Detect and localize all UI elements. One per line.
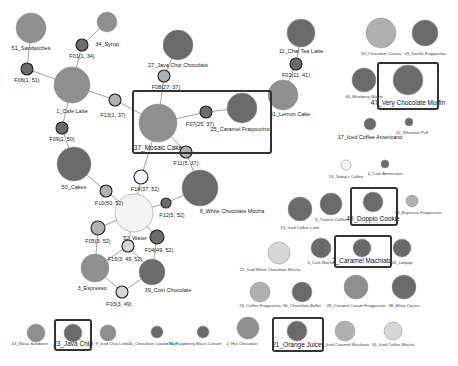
factor-node[interactable]: F01(1, 34) bbox=[69, 39, 95, 59]
item-node[interactable]: 8_Turkish Coffee bbox=[315, 193, 347, 222]
factor-node-circle[interactable] bbox=[56, 122, 68, 134]
item-node-circle[interactable] bbox=[341, 160, 351, 170]
item-node-circle[interactable] bbox=[412, 20, 438, 46]
item-node-circle[interactable] bbox=[237, 317, 259, 339]
factor-node-circle[interactable] bbox=[200, 106, 212, 118]
item-node-circle[interactable] bbox=[335, 321, 355, 341]
item-node-circle[interactable] bbox=[163, 30, 193, 60]
item-node-circle[interactable] bbox=[227, 93, 257, 123]
item-node[interactable]: 26_Coffee Frappucino bbox=[239, 282, 281, 308]
item-node-circle[interactable] bbox=[393, 65, 423, 95]
item-node-circle[interactable] bbox=[97, 12, 117, 32]
item-node-circle[interactable] bbox=[57, 147, 91, 181]
factor-node[interactable]: F09(1, 50) bbox=[49, 122, 75, 142]
item-node[interactable]: 6_White Chocolate Mocha bbox=[182, 170, 265, 214]
item-node-circle[interactable] bbox=[287, 19, 315, 47]
factor-node-circle[interactable] bbox=[158, 70, 170, 82]
item-node-circle[interactable] bbox=[197, 326, 209, 338]
item-node[interactable]: 45_Lolipop bbox=[392, 239, 413, 265]
item-node-circle[interactable] bbox=[268, 242, 290, 264]
item-node[interactable]: 37_Mosaic Cake bbox=[134, 104, 183, 152]
item-node[interactable]: 39_Coin Chocolate bbox=[139, 259, 191, 293]
item-node-circle[interactable] bbox=[54, 67, 90, 103]
item-node-circle[interactable] bbox=[287, 321, 307, 341]
item-node-circle[interactable] bbox=[81, 254, 109, 282]
factor-node-circle[interactable] bbox=[21, 63, 33, 75]
item-node[interactable]: 17_Iced Coffee Americano bbox=[338, 118, 403, 140]
item-node[interactable]: 2_Hot Chocolate bbox=[226, 317, 259, 346]
item-node-circle[interactable] bbox=[405, 118, 413, 126]
item-node-circle[interactable] bbox=[381, 160, 389, 168]
item-node[interactable]: 42_Wheaten Puff bbox=[396, 118, 429, 135]
item-node-circle[interactable] bbox=[16, 13, 46, 43]
item-node[interactable]: 7_Caramel Machiato bbox=[332, 239, 392, 265]
item-node[interactable]: 38_Misto Cocios bbox=[389, 275, 420, 308]
item-node-circle[interactable] bbox=[392, 275, 416, 299]
item-node-circle[interactable] bbox=[250, 282, 270, 302]
item-node-circle[interactable] bbox=[288, 197, 312, 221]
factor-node-circle[interactable] bbox=[290, 58, 302, 70]
item-node-circle[interactable] bbox=[364, 118, 376, 130]
item-node[interactable]: 35_Chocolate Cosica bbox=[361, 18, 401, 56]
factor-node[interactable]: F15(3, 49, 52) bbox=[108, 240, 143, 262]
factor-node[interactable]: F04(49, 52) bbox=[145, 230, 174, 253]
factor-node[interactable]: F12(5, 52) bbox=[159, 198, 185, 218]
item-node[interactable]: 1_Cafe Latte bbox=[54, 67, 90, 114]
item-node[interactable]: 23_Java Chip bbox=[53, 324, 93, 348]
item-node[interactable]: 43_Wasa Sandwich bbox=[12, 324, 50, 346]
item-node[interactable]: 51_Sandwiches bbox=[12, 13, 51, 51]
factor-node[interactable]: F13(1, 37) bbox=[100, 94, 126, 118]
factor-node-circle[interactable] bbox=[109, 94, 121, 106]
factor-node-circle[interactable] bbox=[76, 39, 88, 51]
item-node[interactable]: 25_Caramel Frappucino bbox=[210, 93, 269, 132]
item-node-circle[interactable] bbox=[268, 80, 298, 110]
factor-node[interactable]: F14(37, 52) bbox=[131, 170, 160, 192]
item-node[interactable]: 47_Very Chocolate Muffin bbox=[371, 65, 446, 107]
item-node-circle[interactable] bbox=[292, 282, 312, 302]
factor-node[interactable]: F02(11, 41) bbox=[282, 58, 310, 78]
item-node-circle[interactable] bbox=[363, 192, 383, 212]
factor-node[interactable]: F03(3, 49) bbox=[106, 286, 132, 307]
item-node-circle[interactable] bbox=[139, 259, 165, 285]
item-node[interactable]: 27_Java Chip Chocolate bbox=[148, 30, 208, 68]
item-node-circle[interactable] bbox=[100, 325, 116, 341]
item-node-circle[interactable] bbox=[320, 193, 342, 215]
item-node-circle[interactable] bbox=[384, 322, 402, 340]
item-node-circle[interactable] bbox=[344, 275, 368, 299]
factor-node[interactable]: F08(27, 37) bbox=[152, 70, 181, 90]
factor-node[interactable]: F07(25, 37) bbox=[186, 106, 215, 127]
item-node-circle[interactable] bbox=[139, 104, 177, 142]
item-node[interactable]: 28_Caramel Cream Frappucino bbox=[327, 275, 386, 308]
item-node[interactable]: 40_Doppio Cookie bbox=[346, 192, 400, 223]
factor-node-circle[interactable] bbox=[161, 198, 171, 208]
factor-node-circle[interactable] bbox=[122, 240, 134, 252]
item-node-circle[interactable] bbox=[182, 170, 218, 206]
item-node-circle[interactable] bbox=[406, 195, 418, 207]
item-node-circle[interactable] bbox=[352, 68, 376, 92]
factor-node-circle[interactable] bbox=[150, 230, 164, 244]
item-node[interactable]: 3_Espresso bbox=[77, 254, 109, 291]
factor-node[interactable]: F06(1, 51) bbox=[14, 63, 40, 83]
item-node[interactable]: 16_Iced Coffee Mocha bbox=[372, 322, 415, 347]
item-node-circle[interactable] bbox=[311, 238, 331, 258]
factor-node-circle[interactable] bbox=[116, 286, 128, 298]
item-node[interactable]: 41_Lemon Cake bbox=[268, 80, 310, 117]
item-node[interactable]: 24_Espresso Frappucino bbox=[395, 195, 442, 215]
item-node[interactable]: 11_Chai Tea Latte bbox=[279, 19, 323, 54]
factor-node-circle[interactable] bbox=[91, 221, 105, 235]
factor-node-circle[interactable] bbox=[134, 170, 148, 184]
item-node[interactable]: 13_Today's Coffee bbox=[329, 160, 364, 179]
item-node[interactable]: 21_Orange Juice bbox=[272, 321, 322, 349]
item-node[interactable]: 50_Cakes bbox=[57, 147, 91, 190]
item-node[interactable]: 36_Chocolate Bellini bbox=[283, 282, 321, 308]
item-node[interactable]: 4_Cafe Americano bbox=[368, 160, 403, 176]
item-node[interactable]: 15_Iced Coffee Latte bbox=[281, 197, 320, 230]
item-node[interactable]: 9_Iced Chai Latte bbox=[96, 325, 129, 346]
factor-node[interactable]: F10(50, 52) bbox=[95, 185, 124, 206]
item-node[interactable]: 5_Iced Caramel Machiato bbox=[321, 321, 369, 347]
item-node[interactable]: 29_Vanilla Frappucino bbox=[404, 20, 446, 56]
item-node-circle[interactable] bbox=[27, 324, 45, 342]
item-node[interactable]: 22_Iced White Chocolate Mocha bbox=[240, 242, 301, 272]
item-node-circle[interactable] bbox=[366, 18, 396, 48]
factor-node-circle[interactable] bbox=[100, 185, 112, 197]
